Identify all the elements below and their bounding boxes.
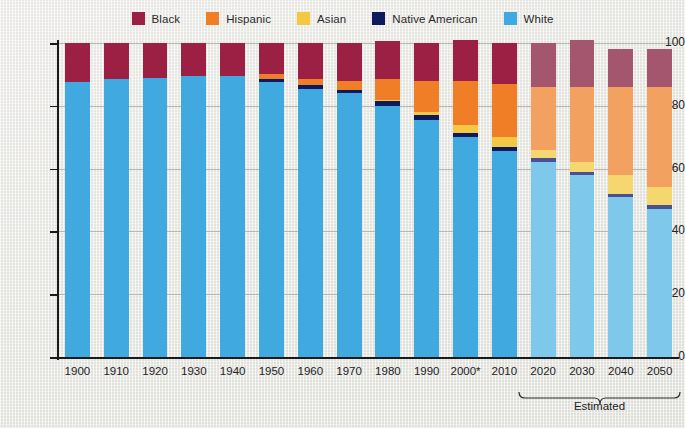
bar-1970[interactable]: [337, 43, 362, 357]
bar-segment-asian[interactable]: [570, 162, 595, 171]
bar-segment-native-american[interactable]: [414, 115, 439, 120]
bar-segment-white[interactable]: [608, 197, 633, 357]
bar-1980[interactable]: [375, 43, 400, 357]
bar-segment-black[interactable]: [531, 43, 556, 87]
bar-1900[interactable]: [65, 43, 90, 357]
bar-segment-native-american[interactable]: [337, 90, 362, 93]
bar-segment-asian[interactable]: [531, 150, 556, 158]
bar-1950[interactable]: [259, 43, 284, 357]
bar-segment-white[interactable]: [453, 137, 478, 357]
bar-segment-white[interactable]: [531, 162, 556, 357]
bar-segment-white[interactable]: [65, 82, 90, 357]
bar-2030[interactable]: [570, 40, 595, 357]
bar-segment-native-american[interactable]: [453, 133, 478, 138]
bar-segment-asian[interactable]: [647, 187, 672, 204]
bar-segment-black[interactable]: [65, 43, 90, 82]
bar-segment-hispanic[interactable]: [414, 81, 439, 112]
bar-segment-hispanic[interactable]: [608, 87, 633, 175]
bar-segment-asian[interactable]: [492, 137, 517, 146]
bar-segment-white[interactable]: [143, 78, 168, 357]
bar-segment-hispanic[interactable]: [531, 87, 556, 150]
bar-segment-native-american[interactable]: [531, 158, 556, 163]
bar-segment-white[interactable]: [220, 76, 245, 357]
bar-segment-white[interactable]: [259, 82, 284, 357]
bar-segment-black[interactable]: [647, 49, 672, 87]
bar-segment-black[interactable]: [570, 40, 595, 87]
bar-segment-white[interactable]: [104, 79, 129, 357]
bar-1960[interactable]: [298, 43, 323, 357]
bar-segment-black[interactable]: [375, 41, 400, 79]
bar-segment-hispanic[interactable]: [570, 87, 595, 162]
bar-1930[interactable]: [181, 43, 206, 357]
bar-segment-asian[interactable]: [608, 175, 633, 194]
bar-segment-native-american[interactable]: [259, 79, 284, 82]
bar-segment-white[interactable]: [492, 151, 517, 357]
bar-1910[interactable]: [104, 43, 129, 357]
bar-segment-black[interactable]: [220, 43, 245, 76]
bar-segment-white[interactable]: [414, 120, 439, 357]
bar-segment-hispanic[interactable]: [647, 87, 672, 187]
bar-segment-black[interactable]: [259, 43, 284, 74]
bar-segment-black[interactable]: [104, 43, 129, 79]
bar-2020[interactable]: [531, 43, 556, 357]
bar-2040[interactable]: [608, 49, 633, 357]
bar-1940[interactable]: [220, 43, 245, 357]
bar-segment-asian[interactable]: [414, 112, 439, 115]
bar-segment-native-american[interactable]: [647, 205, 672, 210]
bar-segment-black[interactable]: [298, 43, 323, 79]
bar-segment-hispanic[interactable]: [337, 81, 362, 90]
bar-segment-native-american[interactable]: [608, 194, 633, 197]
bar-segment-white[interactable]: [375, 106, 400, 357]
bar-segment-asian[interactable]: [453, 125, 478, 133]
estimated-label: Estimated: [519, 400, 680, 412]
bar-1990[interactable]: [414, 43, 439, 357]
bar-segment-hispanic[interactable]: [298, 79, 323, 85]
bar-segment-black[interactable]: [337, 43, 362, 81]
bar-segment-asian[interactable]: [375, 100, 400, 102]
bar-segment-hispanic[interactable]: [259, 74, 284, 79]
bar-segment-native-american[interactable]: [492, 147, 517, 152]
stacked-bar-chart: BlackHispanicAsianNative AmericanWhite P…: [0, 0, 685, 428]
bar-segment-native-american[interactable]: [570, 172, 595, 175]
bar-segment-white[interactable]: [337, 93, 362, 357]
bar-segment-white[interactable]: [298, 89, 323, 357]
bar-segment-black[interactable]: [181, 43, 206, 76]
bar-segment-black[interactable]: [453, 40, 478, 81]
bar-2010[interactable]: [492, 43, 517, 357]
bar-segment-black[interactable]: [608, 49, 633, 87]
bar-1920[interactable]: [143, 43, 168, 357]
bar-segment-black[interactable]: [492, 43, 517, 84]
bar-segment-black[interactable]: [143, 43, 168, 78]
bar-segment-hispanic[interactable]: [453, 81, 478, 125]
bar-segment-native-american[interactable]: [375, 101, 400, 106]
bar-segment-hispanic[interactable]: [375, 79, 400, 99]
bar-segment-hispanic[interactable]: [492, 84, 517, 137]
bar-2050[interactable]: [647, 49, 672, 357]
bar-segment-white[interactable]: [647, 209, 672, 357]
bar-segment-native-american[interactable]: [298, 85, 323, 88]
bar-2000[interactable]: [453, 40, 478, 357]
bar-segment-black[interactable]: [414, 43, 439, 81]
bar-segment-white[interactable]: [181, 76, 206, 357]
bar-segment-white[interactable]: [570, 175, 595, 357]
